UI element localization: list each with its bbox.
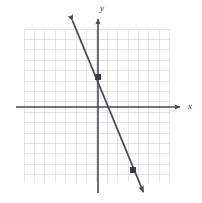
x-axis-label: x [187,101,192,111]
graph-figure: y x [0,0,202,203]
y-axis-label: y [99,3,104,13]
plotted-point-y-intercept [95,74,101,80]
coordinate-plane-svg: y x [0,0,202,203]
plotted-point-second [130,167,136,173]
